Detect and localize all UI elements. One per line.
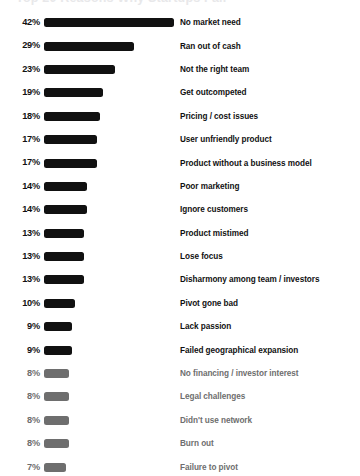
bar-category-label: Failure to pivot [180, 463, 358, 472]
bar-value-label: 23% [8, 65, 40, 74]
bar-track [44, 369, 174, 378]
bar-value-label: 14% [8, 205, 40, 214]
bar-category-label: Ran out of cash [180, 42, 358, 51]
bar [44, 65, 115, 74]
bar-track [44, 159, 174, 168]
bar [44, 463, 66, 472]
bar-category-label: Pivot gone bad [180, 299, 358, 308]
bar-value-label: 8% [8, 392, 40, 401]
bar-track [44, 416, 174, 425]
bar-row: 9%Failed geographical expansion [0, 338, 360, 361]
bar-track [44, 112, 174, 121]
bar-track [44, 322, 174, 331]
bar-row: 23%Not the right team [0, 58, 360, 81]
bar-track [44, 392, 174, 401]
bar-track [44, 65, 174, 74]
bar-track [44, 88, 174, 97]
bar-track [44, 346, 174, 355]
bar-row: 13%Product mistimed [0, 222, 360, 245]
bar-category-label: No market need [180, 18, 358, 27]
bar-value-label: 9% [8, 322, 40, 331]
bar-row: 8%No financing / investor interest [0, 362, 360, 385]
bar-track [44, 205, 174, 214]
bar-value-label: 29% [8, 41, 40, 50]
bar-row: 42%No market need [0, 11, 360, 34]
bar-row: 13%Disharmony among team / investors [0, 268, 360, 291]
bar-row: 10%Pivot gone bad [0, 292, 360, 315]
bar-value-label: 8% [8, 416, 40, 425]
bar-value-label: 17% [8, 135, 40, 144]
bar-rows-container: 42%No market need29%Ran out of cash23%No… [0, 11, 360, 476]
bar-category-label: Didn't use network [180, 416, 358, 425]
bar [44, 18, 174, 27]
bar-row: 8%Legal challenges [0, 385, 360, 408]
bar-value-label: 7% [8, 463, 40, 472]
bar [44, 369, 69, 378]
bar [44, 392, 69, 401]
bar-row: 14%Poor marketing [0, 175, 360, 198]
bar-track [44, 299, 174, 308]
bar [44, 159, 97, 168]
bar-category-label: Disharmony among team / investors [180, 275, 358, 284]
bar-category-label: Product mistimed [180, 229, 358, 238]
bar [44, 229, 84, 238]
bar [44, 182, 87, 191]
bar-category-label: Burn out [180, 439, 358, 448]
bar-row: 17%Product without a business model [0, 151, 360, 174]
bar-category-label: Ignore customers [180, 205, 358, 214]
bar-category-label: Legal challenges [180, 392, 358, 401]
bar-row: 8%Burn out [0, 432, 360, 455]
bar-value-label: 9% [8, 346, 40, 355]
bar-value-label: 8% [8, 369, 40, 378]
bar-category-label: Pricing / cost issues [180, 112, 358, 121]
bar-row: 14%Ignore customers [0, 198, 360, 221]
bar-track [44, 275, 174, 284]
bar-value-label: 19% [8, 88, 40, 97]
bar [44, 252, 84, 261]
bar-value-label: 8% [8, 439, 40, 448]
bar-category-label: Poor marketing [180, 182, 358, 191]
bar-track [44, 229, 174, 238]
bar-row: 17%User unfriendly product [0, 128, 360, 151]
bar-track [44, 18, 174, 27]
bar-value-label: 10% [8, 299, 40, 308]
bar-row: 9%Lack passion [0, 315, 360, 338]
bar-track [44, 252, 174, 261]
bar-row: 8%Didn't use network [0, 409, 360, 432]
bar [44, 439, 69, 448]
bar-row: 18%Pricing / cost issues [0, 105, 360, 128]
bar-value-label: 18% [8, 112, 40, 121]
bar-track [44, 463, 174, 472]
bar [44, 275, 84, 284]
bar-row: 7%Failure to pivot [0, 455, 360, 476]
bar [44, 112, 100, 121]
bar-category-label: Get outcompeted [180, 88, 358, 97]
bar-row: 29%Ran out of cash [0, 34, 360, 57]
bar-category-label: Lack passion [180, 322, 358, 331]
bar-track [44, 182, 174, 191]
bar-category-label: Not the right team [180, 65, 358, 74]
bar [44, 205, 87, 214]
bar-category-label: Failed geographical expansion [180, 346, 358, 355]
bar-track [44, 42, 174, 51]
bar-row: 13%Lose focus [0, 245, 360, 268]
bar-value-label: 13% [8, 229, 40, 238]
bar [44, 88, 103, 97]
bar-track [44, 439, 174, 448]
bar [44, 416, 69, 425]
bar-category-label: User unfriendly product [180, 135, 358, 144]
bar-category-label: Product without a business model [180, 159, 358, 168]
bar [44, 135, 97, 144]
bar-value-label: 13% [8, 275, 40, 284]
bar-value-label: 14% [8, 182, 40, 191]
bar-category-label: No financing / investor interest [180, 369, 358, 378]
bar-value-label: 13% [8, 252, 40, 261]
bar [44, 346, 72, 355]
bar [44, 42, 134, 51]
chart-title: Top 20 Reasons Why Startups Fail [16, 0, 346, 5]
bar [44, 322, 72, 331]
bar [44, 299, 75, 308]
bar-category-label: Lose focus [180, 252, 358, 261]
bar-value-label: 42% [8, 18, 40, 27]
